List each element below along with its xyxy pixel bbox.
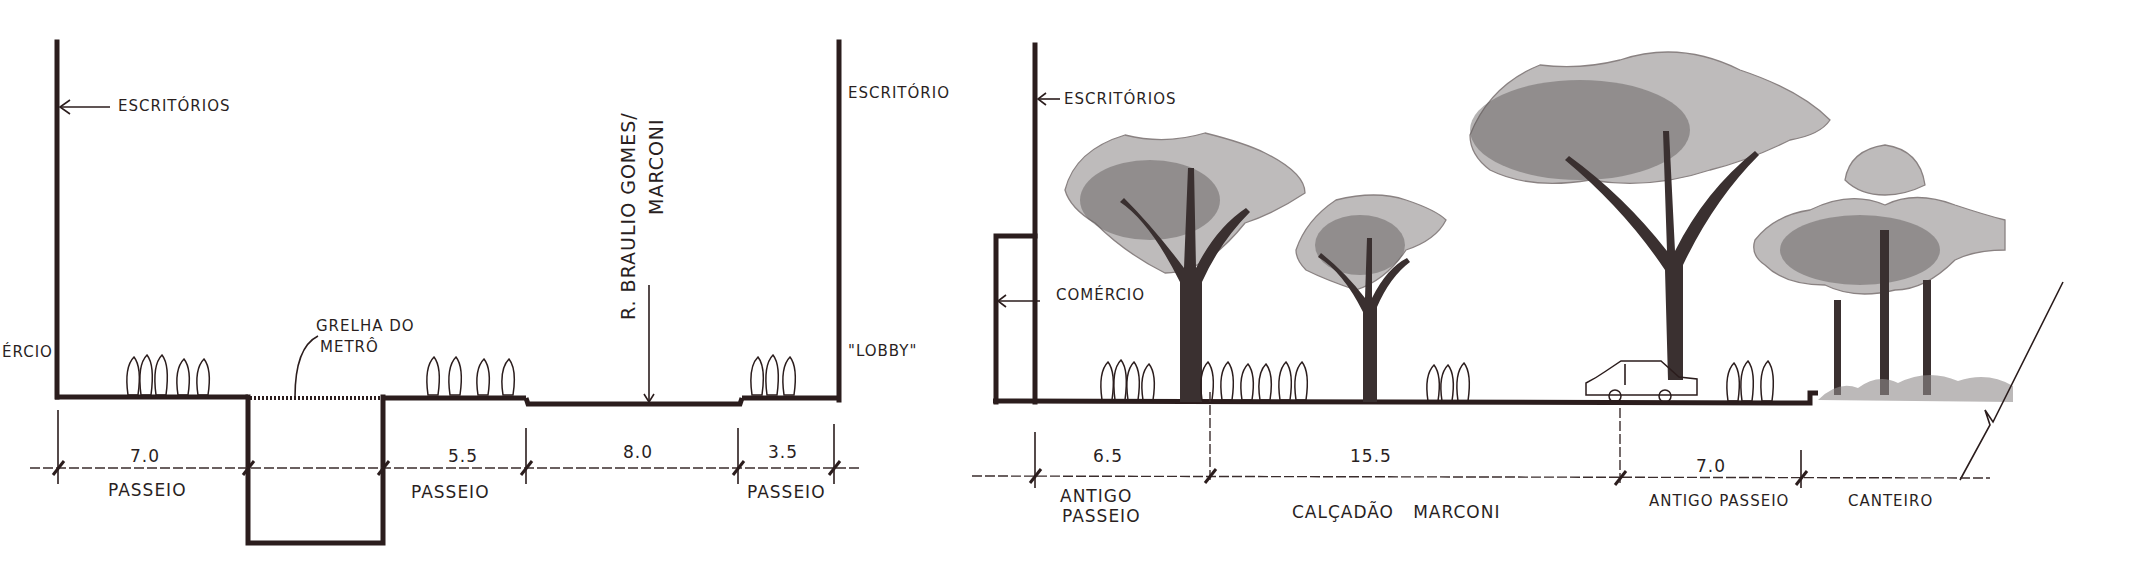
offices-arrow <box>1038 93 1060 105</box>
label-offices: ESCRITÓRIOS <box>1064 89 1176 108</box>
offices-arrow-left <box>60 100 110 114</box>
people-group-3 <box>751 355 795 395</box>
metro-shaft <box>248 397 383 543</box>
dim-value-r3: 7.0 <box>1696 456 1726 476</box>
people-group-5 <box>1201 362 1307 400</box>
label-street-line2: MARCONI <box>645 118 667 215</box>
people-group-6 <box>1427 363 1469 401</box>
label-metro-grate-2: METRÔ <box>320 337 379 356</box>
dim-label-4: PASSEIO <box>747 482 826 502</box>
tree-3-large <box>1470 52 1830 380</box>
left-section: ESCRITÓRIOS ÉRCIO GRELHA DO METRÔ ESCRIT… <box>2 42 950 543</box>
dim-value-r2: 15.5 <box>1350 446 1392 466</box>
label-offices-right: ESCRITÓRIO <box>848 83 950 102</box>
dim-value-2: 5.5 <box>448 446 478 466</box>
label-lobby: "LOBBY" <box>848 342 917 360</box>
commerce-block <box>996 236 1035 402</box>
people-group-7 <box>1727 361 1773 401</box>
dim-label-r1-line1: ANTIGO <box>1060 486 1132 506</box>
dim-label-2: PASSEIO <box>411 482 490 502</box>
dim-value-4: 3.5 <box>768 442 798 462</box>
dim-label-r2: CALÇADÃO MARCONI <box>1292 501 1500 522</box>
street-ground <box>526 398 742 404</box>
people-group-1 <box>127 355 209 395</box>
label-offices-left: ESCRITÓRIOS <box>118 96 230 115</box>
dim-label-r3: ANTIGO PASSEIO <box>1649 492 1789 510</box>
right-dimension-line <box>972 392 1990 488</box>
dim-value-1: 7.0 <box>130 446 160 466</box>
people-group-2 <box>427 357 514 395</box>
dim-label-r1-line2: PASSEIO <box>1062 506 1141 526</box>
label-street-line1: R. BRAULIO GOMES/ <box>617 112 639 320</box>
label-metro-grate-1: GRELHA DO <box>316 317 415 335</box>
dim-value-3: 8.0 <box>623 442 653 462</box>
street-section-drawing: ESCRITÓRIOS ÉRCIO GRELHA DO METRÔ ESCRIT… <box>0 0 2143 575</box>
grate-leader <box>295 336 318 397</box>
dim-label-1: PASSEIO <box>108 480 187 500</box>
dim-label-r4: CANTEIRO <box>1848 492 1933 510</box>
people-group-4 <box>1101 360 1154 400</box>
tree-group-canteiro <box>1754 145 2013 402</box>
right-section: ESCRITÓRIOS COMÉRCIO <box>972 45 2063 526</box>
label-commerce: COMÉRCIO <box>1056 285 1145 304</box>
tree-1 <box>1065 133 1305 402</box>
dim-value-r1: 6.5 <box>1093 446 1123 466</box>
tree-2 <box>1296 195 1446 402</box>
street-name-label: R. BRAULIO GOMES/ MARCONI <box>617 112 667 320</box>
label-commerce-left: ÉRCIO <box>2 342 53 361</box>
